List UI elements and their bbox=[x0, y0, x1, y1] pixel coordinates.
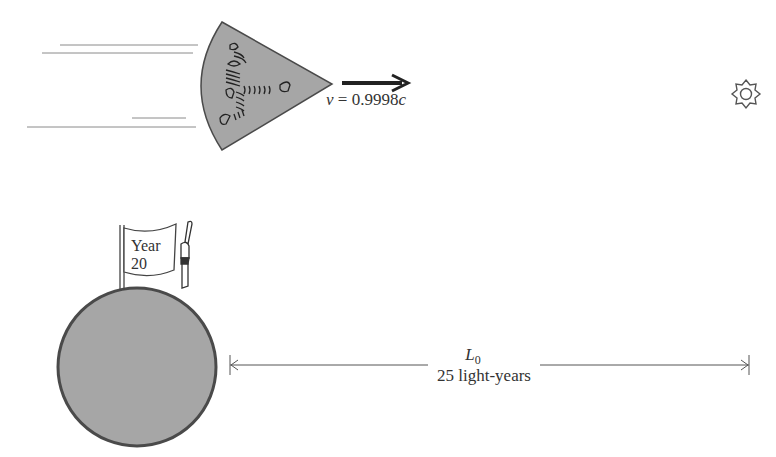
motion-lines bbox=[27, 45, 198, 127]
distance-symbol: L0 bbox=[464, 345, 480, 367]
velocity-label: v = 0.9998c bbox=[326, 90, 406, 109]
sun-icon bbox=[732, 80, 760, 108]
relativity-diagram: v = 0.9998c Year 20 L0 25 light-years bbox=[0, 0, 776, 457]
year-flag: Year 20 bbox=[120, 224, 176, 290]
flag-line-number: 20 bbox=[131, 255, 147, 272]
velocity-arrow bbox=[342, 75, 408, 91]
distance-value-label: 25 light-years bbox=[437, 366, 531, 385]
planet bbox=[58, 288, 216, 446]
flag-line-year: Year bbox=[131, 237, 161, 254]
person-icon bbox=[181, 221, 192, 288]
spaceship bbox=[201, 22, 332, 150]
